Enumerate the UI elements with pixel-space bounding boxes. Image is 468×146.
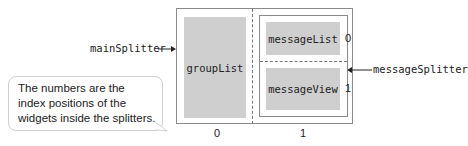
callout-line-2: index positions of the bbox=[18, 96, 162, 111]
main-index-1: 1 bbox=[300, 127, 306, 139]
message-view-widget: messageView bbox=[266, 68, 340, 110]
group-list-widget: groupList bbox=[184, 17, 246, 118]
message-list-widget: messageList bbox=[266, 22, 340, 55]
group-list-label: groupList bbox=[187, 62, 244, 74]
callout-tail-icon bbox=[155, 120, 169, 132]
main-splitter-arrow-icon bbox=[157, 45, 177, 53]
main-index-0: 0 bbox=[214, 127, 220, 139]
callout-line-1: The numbers are the bbox=[18, 81, 162, 96]
message-index-1: 1 bbox=[345, 82, 351, 94]
callout-line-3: widgets inside the splitters. bbox=[18, 111, 162, 126]
message-index-0: 0 bbox=[345, 32, 351, 44]
message-list-label: messageList bbox=[268, 33, 338, 45]
callout-note: The numbers are the index positions of t… bbox=[8, 76, 163, 131]
message-view-label: messageView bbox=[268, 83, 338, 95]
message-splitter-arrow-icon bbox=[346, 66, 372, 74]
main-splitter-handle bbox=[252, 9, 253, 124]
main-splitter-label: mainSplitter bbox=[90, 42, 166, 54]
message-splitter-handle bbox=[260, 61, 347, 62]
message-splitter-label: messageSplitter bbox=[373, 63, 468, 75]
